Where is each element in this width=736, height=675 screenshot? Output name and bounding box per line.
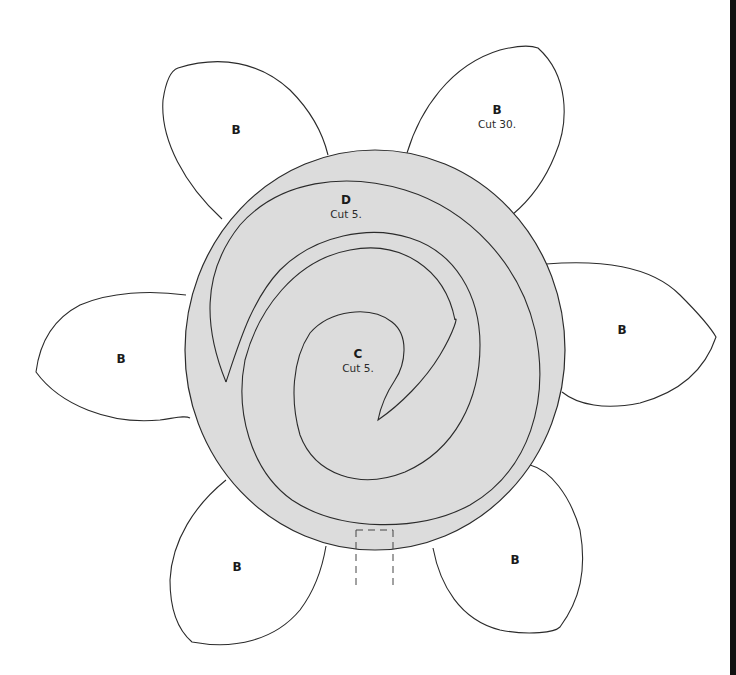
piece-letter: B	[232, 561, 241, 575]
piece-letter: B	[116, 353, 125, 367]
petal-right-shape	[546, 263, 716, 406]
piece-letter: C	[342, 348, 373, 362]
piece-letter: B	[510, 554, 519, 568]
petal-left-shape	[36, 292, 190, 420]
petal-top-right-label: B Cut 30.	[478, 104, 516, 130]
piece-letter: B	[617, 324, 626, 338]
petal-right-label: B	[617, 324, 626, 338]
flower-pattern-diagram: B B Cut 30. B B B B D Cut 5. C Cut 5.	[0, 0, 736, 675]
petal-bottom-right-label: B	[510, 554, 519, 568]
center-circle-piece	[185, 150, 565, 550]
cut-instruction: Cut 30.	[478, 118, 516, 130]
petal-left-label: B	[116, 353, 125, 367]
page-edge-bar	[730, 0, 736, 675]
piece-c-label: C Cut 5.	[342, 348, 373, 374]
petal-top-left-label: B	[231, 124, 240, 138]
piece-letter: B	[231, 124, 240, 138]
piece-letter: B	[478, 104, 516, 118]
cut-instruction: Cut 5.	[330, 208, 361, 220]
piece-d-label: D Cut 5.	[330, 194, 361, 220]
petal-bottom-left-label: B	[232, 561, 241, 575]
cut-instruction: Cut 5.	[342, 362, 373, 374]
piece-letter: D	[330, 194, 361, 208]
